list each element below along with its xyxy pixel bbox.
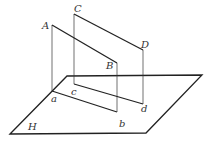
label-c: c: [71, 86, 77, 97]
label-D: D: [140, 39, 149, 50]
label-B: B: [105, 60, 113, 71]
plane-h: [10, 75, 202, 134]
label-A: A: [41, 20, 49, 31]
label-d: d: [141, 103, 147, 114]
label-plane-H: H: [27, 121, 37, 132]
label-C: C: [74, 3, 82, 14]
projection-diagram: A B C D a b c d H: [0, 0, 208, 148]
label-b: b: [119, 118, 125, 129]
label-a: a: [51, 93, 57, 104]
